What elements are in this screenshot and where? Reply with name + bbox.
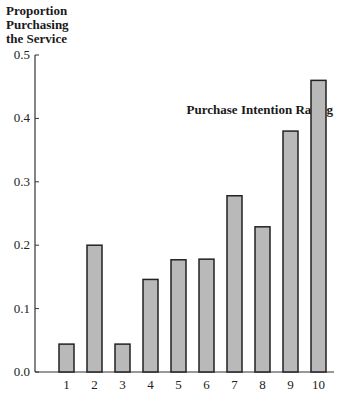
y-tick-label: 0.4 [14, 110, 31, 125]
bar-7 [227, 196, 242, 372]
x-tick-label: 8 [259, 377, 266, 392]
y-tick-label: 0.3 [14, 174, 30, 189]
bar-chart: 0.00.10.20.30.40.512345678910 [0, 0, 339, 408]
y-tick-label: 0.2 [14, 237, 30, 252]
bar-3 [115, 344, 130, 372]
bar-10 [311, 80, 326, 372]
bar-4 [143, 279, 158, 372]
y-tick-label: 0.5 [14, 47, 30, 62]
bar-5 [171, 260, 186, 372]
bar-6 [199, 259, 214, 372]
x-tick-label: 6 [203, 377, 210, 392]
x-tick-label: 10 [312, 377, 325, 392]
y-tick-label: 0.0 [14, 364, 30, 379]
x-tick-label: 7 [231, 377, 238, 392]
y-tick-label: 0.1 [14, 301, 30, 316]
bar-1 [59, 344, 74, 372]
x-tick-label: 5 [175, 377, 182, 392]
bar-8 [255, 227, 270, 372]
x-tick-label: 1 [63, 377, 70, 392]
x-tick-label: 3 [119, 377, 126, 392]
x-tick-label: 9 [287, 377, 294, 392]
bar-2 [87, 245, 102, 372]
x-tick-label: 4 [147, 377, 154, 392]
bar-9 [283, 131, 298, 372]
x-tick-label: 2 [91, 377, 98, 392]
